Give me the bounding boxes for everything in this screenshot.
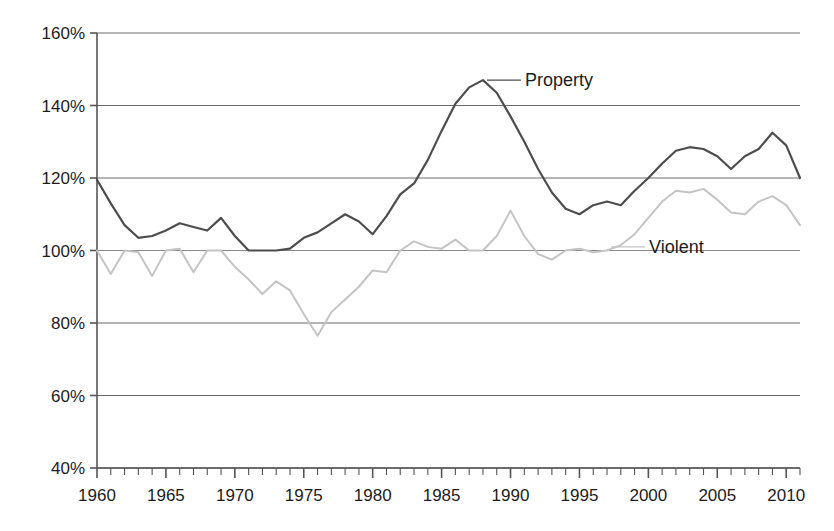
x-tick-label-1965: 1965 <box>147 486 185 505</box>
x-tick-label-2005: 2005 <box>698 486 736 505</box>
y-tick-label-140: 140% <box>42 97 85 116</box>
y-tick-label-60: 60% <box>51 387 85 406</box>
x-tick-labels: 1960196519701975198019851990199520002005… <box>78 486 805 505</box>
y-axis <box>90 33 97 468</box>
chart-canvas: 160%140%120%100%80%60%40% 19601965197019… <box>0 0 834 531</box>
x-tick-label-2010: 2010 <box>767 486 805 505</box>
series-lines <box>97 80 800 336</box>
x-tick-label-2000: 2000 <box>629 486 667 505</box>
x-tick-label-1990: 1990 <box>492 486 530 505</box>
x-tick-label-1980: 1980 <box>354 486 392 505</box>
series-label-violent: Violent <box>649 237 704 257</box>
series-label-property: Property <box>525 70 593 90</box>
y-tick-label-80: 80% <box>51 314 85 333</box>
y-tick-label-40: 40% <box>51 459 85 478</box>
y-tick-label-160: 160% <box>42 24 85 43</box>
y-tick-label-100: 100% <box>42 242 85 261</box>
y-tick-labels: 160%140%120%100%80%60%40% <box>42 24 85 478</box>
x-tick-label-1995: 1995 <box>561 486 599 505</box>
x-tick-label-1960: 1960 <box>78 486 116 505</box>
x-axis <box>97 468 800 478</box>
x-tick-label-1985: 1985 <box>423 486 461 505</box>
line-chart: 160%140%120%100%80%60%40% 19601965197019… <box>0 0 834 531</box>
series-line-violent <box>97 189 800 336</box>
y-tick-label-120: 120% <box>42 169 85 188</box>
x-tick-label-1975: 1975 <box>285 486 323 505</box>
x-tick-label-1970: 1970 <box>216 486 254 505</box>
